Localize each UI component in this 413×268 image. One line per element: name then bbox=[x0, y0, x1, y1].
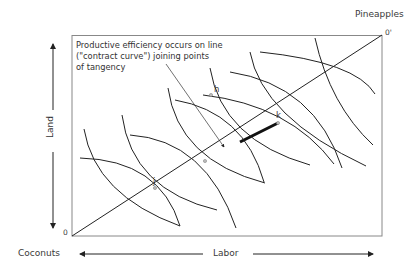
annotation-arrow bbox=[166, 64, 224, 147]
coconuts-label: Coconuts bbox=[18, 249, 60, 258]
point-k-label: k bbox=[276, 111, 281, 120]
labor-label: Labor bbox=[213, 249, 238, 258]
origin-prime-label: 0' bbox=[385, 29, 392, 37]
point-k bbox=[276, 121, 279, 124]
point-j-label: j bbox=[153, 177, 155, 186]
annotation-text: Productive efficiency occurs on line ("c… bbox=[76, 40, 223, 74]
point-j bbox=[153, 186, 156, 189]
point-h bbox=[209, 93, 212, 96]
point-h-label: h bbox=[214, 85, 219, 94]
origin-label: 0 bbox=[63, 229, 68, 237]
annotation-line-1: Productive efficiency occurs on line bbox=[76, 40, 223, 51]
point-mid bbox=[203, 159, 206, 162]
pineapples-label: Pineapples bbox=[355, 10, 404, 19]
annotation-line-3: of tangency bbox=[76, 62, 223, 73]
annotation-line-2: ("contract curve") joining points bbox=[76, 51, 223, 62]
land-label: Land bbox=[45, 116, 55, 138]
